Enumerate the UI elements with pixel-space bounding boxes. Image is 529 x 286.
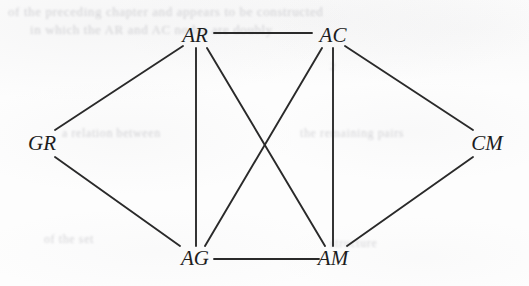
- graph-edge-ar-gr: [55, 46, 183, 130]
- graph-edges-layer: [0, 0, 529, 286]
- edge-group: [55, 33, 473, 259]
- graph-edge-ar-am: [207, 48, 325, 246]
- graph-edge-am-cm: [347, 157, 473, 246]
- graph-edge-ac-ag: [205, 48, 322, 246]
- graph-node-gr: GR: [28, 131, 56, 156]
- figure-canvas: of the preceding chapter and appears to …: [0, 0, 529, 286]
- graph-edge-gr-ag: [55, 157, 180, 246]
- graph-node-ar: AR: [182, 23, 208, 48]
- graph-node-ac: AC: [320, 23, 347, 48]
- graph-node-am: AM: [318, 246, 348, 271]
- graph-edge-ac-cm: [345, 46, 473, 130]
- graph-node-ag: AG: [181, 246, 209, 271]
- graph-node-cm: CM: [471, 131, 503, 156]
